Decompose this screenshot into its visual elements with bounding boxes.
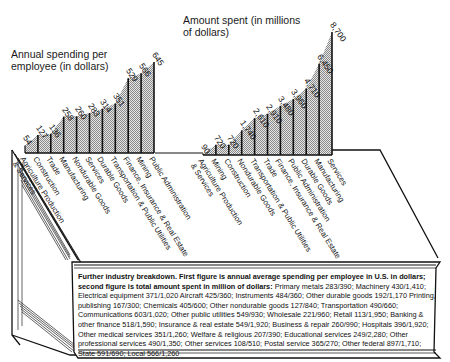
right-title-line2: of dollars) xyxy=(183,26,300,38)
footnote-breakdown: Further industry breakdown. First figure… xyxy=(78,272,438,358)
left-title-line2: employee (in dollars) xyxy=(11,60,108,72)
right-title-line1: Amount spent (in millions xyxy=(183,14,300,26)
chart-figure: Annual spending per employee (in dollars… xyxy=(0,0,450,362)
left-title-line1: Annual spending per xyxy=(11,48,108,60)
footnote-body: Primary metals 283/390; Machinery 430/1,… xyxy=(78,282,436,358)
right-chart-title: Amount spent (in millions of dollars) xyxy=(183,14,300,38)
left-chart-title: Annual spending per employee (in dollars… xyxy=(11,48,108,72)
